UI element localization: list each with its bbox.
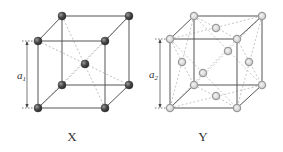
atom-corner	[34, 104, 42, 112]
atom-corner	[101, 37, 109, 45]
atom-corner	[34, 37, 42, 45]
atom-face-top	[212, 24, 219, 31]
atom-corner	[125, 81, 133, 89]
atom-corner	[190, 12, 197, 19]
atom-body-center	[81, 60, 89, 68]
atom-corner	[58, 12, 66, 20]
atom-corner	[258, 81, 265, 88]
atom-corner	[58, 81, 66, 89]
atom-corner	[166, 35, 173, 42]
atom-face-right	[245, 58, 252, 65]
atom-corner	[190, 81, 197, 88]
unit-cell-y: a2 Y	[149, 12, 266, 144]
unit-cell-x: a1 X	[17, 12, 133, 144]
caption-y: Y	[198, 129, 208, 144]
atom-corner	[233, 35, 240, 42]
dimension-label-a2: a2	[149, 68, 159, 82]
atom-corner	[258, 12, 265, 19]
dimension-label-a1: a1	[17, 69, 26, 83]
atom-face-back	[224, 47, 231, 54]
atom-face-front	[199, 69, 206, 76]
atom-corner	[166, 104, 173, 111]
atom-face-left	[178, 58, 185, 65]
atom-face-bottom	[212, 92, 219, 99]
crystal-diagram: a1 X	[0, 0, 283, 152]
atom-corner	[233, 104, 240, 111]
atom-corner	[125, 12, 133, 20]
atom-corner	[101, 104, 109, 112]
caption-x: X	[67, 129, 77, 144]
